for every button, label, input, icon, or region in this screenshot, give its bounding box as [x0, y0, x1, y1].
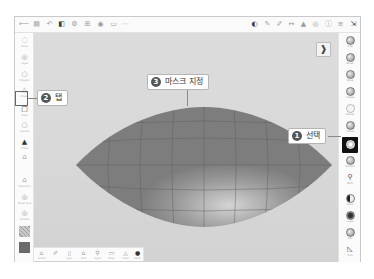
mask-brush-icon: [346, 140, 355, 149]
clay-brush-icon: [346, 36, 355, 45]
callout-select: 1 선택: [288, 128, 326, 144]
tool-smooth[interactable]: ◎ Smooth: [17, 209, 32, 223]
flat-brush-icon: [346, 228, 355, 237]
pinch-brush-icon: [346, 194, 355, 203]
dyno-icon: ⚲: [92, 249, 103, 257]
tool-scene[interactable]: ▲ Scene: [17, 138, 32, 152]
tool-brushsize[interactable]: ◎ Brush Size: [17, 193, 32, 207]
tool-mask[interactable]: □ Mask: [17, 105, 32, 119]
leader-line: [328, 136, 341, 137]
more-icon[interactable]: ⋯: [121, 20, 130, 29]
tool-polygon[interactable]: ○ Polygon: [17, 70, 32, 84]
color-swatch[interactable]: [19, 242, 30, 253]
move-icon[interactable]: ↔: [287, 20, 296, 29]
tool-layer[interactable]: ◎ Layer: [17, 53, 32, 67]
brush-clay[interactable]: Clay: [342, 35, 358, 51]
move-brush-icon: [346, 70, 355, 79]
collapse-icon[interactable]: ⇲: [349, 20, 358, 29]
select-icon[interactable]: ▲: [299, 20, 308, 29]
right-toolbar: Clay Brush Move Crease Flatten Inflate S…: [338, 33, 360, 262]
scene-icon: ▲: [17, 138, 32, 147]
home-icon: ⌂: [36, 249, 47, 257]
layer-icon: ◎: [17, 53, 32, 62]
options-icon: ○: [17, 121, 32, 130]
brush-icon[interactable]: ✎: [263, 20, 272, 29]
brush-pinch[interactable]: Pinch: [342, 193, 358, 209]
mask-icon: ▭: [106, 249, 117, 257]
smooth-brush-icon: [346, 156, 355, 165]
brush-size-icon: ◎: [17, 193, 32, 202]
crease-brush-icon: [346, 87, 355, 96]
btn-invert[interactable]: ◬Invert: [120, 249, 131, 260]
top-toolbar: ⟵ ▤ ↶ ◧ ⚙ ⊞ ◉ ▭ ⋯ ◐ ✎ ✐ ↔ ▲ ◎ ⓘ ≡ ⇲: [15, 17, 360, 33]
home-icon: ⌂: [17, 153, 32, 162]
invert-icon: ◬: [120, 249, 131, 257]
brush-flat[interactable]: Flat: [342, 227, 358, 243]
btn-sym[interactable]: ▯Sym: [64, 249, 75, 260]
brush-smooth[interactable]: Smooth: [342, 155, 358, 171]
brush-standard[interactable]: Brush: [342, 52, 358, 68]
btn-dyno[interactable]: ⚲Dyno: [92, 249, 103, 260]
ruler-icon[interactable]: ▭: [109, 20, 118, 29]
undo-icon[interactable]: ↶: [45, 20, 54, 29]
smooth-icon: ◎: [17, 209, 32, 218]
lock-icon: ⌂: [78, 249, 89, 257]
flatten-brush-icon: [346, 104, 355, 113]
layer-brush-icon: [346, 211, 355, 220]
callout-tap: 2 탭: [37, 90, 68, 106]
tool-transform[interactable]: ⌂ Transform: [17, 176, 32, 190]
pattern-swatch[interactable]: [19, 226, 30, 237]
bottom-toolbar: ⌂Home ✐ ▯Sym ⌂Lock ⚲Dyno ▭Mask ◬Invert ●…: [34, 247, 144, 261]
inflate-brush-icon: [346, 121, 355, 130]
camera-icon[interactable]: ◉: [96, 20, 105, 29]
standard-brush-icon: [346, 53, 355, 62]
grid-icon[interactable]: ⊞: [83, 20, 92, 29]
highlight-mask-tool: [15, 91, 28, 106]
info-icon[interactable]: ⓘ: [324, 20, 333, 29]
brush-mask-selected[interactable]: [342, 137, 358, 153]
layers-icon[interactable]: ◧: [57, 20, 66, 29]
leader-line: [187, 90, 188, 106]
material-icon[interactable]: ◐: [250, 20, 259, 29]
brush-crease[interactable]: Crease: [342, 86, 358, 102]
back-icon[interactable]: ⟵: [19, 20, 28, 29]
brush-layer[interactable]: Layer: [342, 210, 358, 226]
brush-inflate[interactable]: Inflate: [342, 120, 358, 136]
brush-paint[interactable]: ⚲Paint: [342, 172, 358, 188]
leader-line: [28, 98, 37, 99]
pen-icon[interactable]: ✐: [275, 20, 284, 29]
brush-flatten[interactable]: Flatten: [342, 103, 358, 119]
symmetry-icon: ▯: [64, 249, 75, 257]
tool-home[interactable]: ⌂: [17, 153, 32, 167]
brush-trim[interactable]: ◺Trim: [342, 244, 358, 260]
tool-options[interactable]: ○ Options: [17, 121, 32, 135]
file-icon[interactable]: ▤: [32, 20, 41, 29]
btn-pen[interactable]: ✐: [50, 249, 61, 257]
mesh-icon: ●: [132, 249, 143, 257]
btn-mask[interactable]: ▭Mask: [106, 249, 117, 260]
mask-icon: □: [17, 105, 32, 114]
transform-icon: ⌂: [17, 176, 32, 185]
btn-home[interactable]: ⌂Home: [36, 249, 47, 260]
settings-icon[interactable]: ⚙: [70, 20, 79, 29]
trim-brush-icon: ◺: [346, 245, 355, 254]
lens-mesh-object[interactable]: [74, 105, 334, 230]
callout-mask-assign: 3 마스크 지정: [147, 74, 209, 90]
pin-icon: ❱: [320, 44, 328, 54]
menu-icon[interactable]: ≡: [336, 20, 345, 29]
polygon-icon: ○: [17, 70, 32, 79]
btn-lock[interactable]: ⌂Lock: [78, 249, 89, 260]
btn-mesh[interactable]: ●Mesh: [132, 249, 143, 260]
draw-icon: ◌: [17, 36, 32, 45]
pin-button[interactable]: ❱: [316, 42, 331, 57]
brush-move[interactable]: Move: [342, 69, 358, 85]
left-toolbar: ◌ Draw ◎ Layer ○ Polygon △ Shape □ Mask …: [15, 33, 34, 262]
tool-draw[interactable]: ◌ Draw: [17, 36, 32, 50]
pen-icon: ✐: [50, 249, 61, 257]
view-icon[interactable]: ◎: [311, 20, 320, 29]
paint-brush-icon: ⚲: [346, 173, 355, 182]
